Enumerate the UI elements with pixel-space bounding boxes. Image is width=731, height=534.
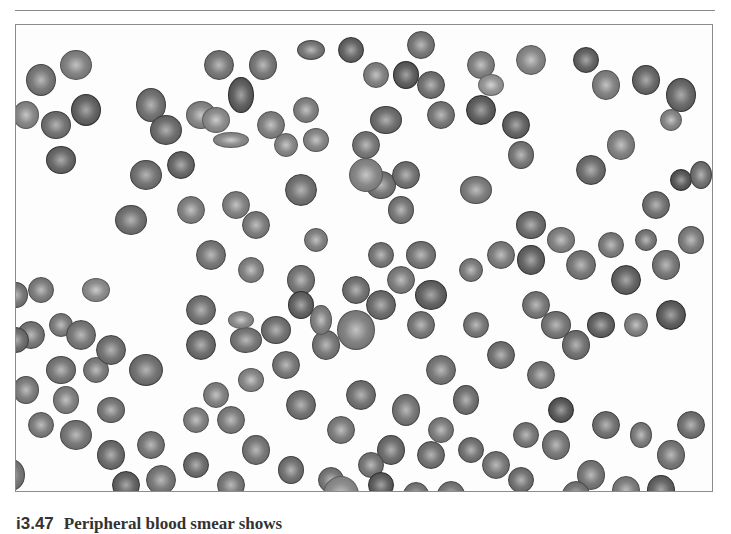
red-blood-cell <box>46 146 76 174</box>
red-blood-cell <box>297 40 325 60</box>
red-blood-cell <box>286 390 316 420</box>
red-blood-cell <box>415 280 447 310</box>
blood-smear-photomicrograph <box>15 24 713 492</box>
red-blood-cell <box>352 131 380 159</box>
red-blood-cell <box>458 437 484 463</box>
red-blood-cell <box>466 95 496 125</box>
red-blood-cell <box>576 155 606 185</box>
red-blood-cell <box>647 475 675 492</box>
red-blood-cell <box>460 176 492 204</box>
red-blood-cell <box>327 416 355 444</box>
red-blood-cell <box>388 196 414 224</box>
red-blood-cell <box>547 227 575 253</box>
red-blood-cell <box>592 411 620 439</box>
red-blood-cell <box>677 411 705 439</box>
red-blood-cell <box>274 133 298 157</box>
red-blood-cell <box>261 316 291 344</box>
red-blood-cell <box>97 440 125 470</box>
red-blood-cell <box>428 417 454 443</box>
red-blood-cell <box>41 111 71 139</box>
red-blood-cell <box>217 406 245 434</box>
red-blood-cell <box>82 278 110 302</box>
red-blood-cell <box>678 226 704 254</box>
red-blood-cell <box>513 422 539 448</box>
red-blood-cell <box>482 451 510 479</box>
red-blood-cell <box>112 471 140 492</box>
red-blood-cell <box>642 191 670 219</box>
red-blood-cell <box>46 356 76 384</box>
red-blood-cell <box>186 295 216 325</box>
red-blood-cell <box>242 435 270 465</box>
red-blood-cell <box>437 481 465 492</box>
header-rule <box>15 10 715 11</box>
caption-text: Peripheral blood smear shows <box>64 514 282 533</box>
red-blood-cell <box>238 257 264 283</box>
red-blood-cell <box>487 241 515 269</box>
red-blood-cell <box>508 141 534 169</box>
red-blood-cell <box>242 211 270 239</box>
red-blood-cell <box>612 476 640 492</box>
red-blood-cell <box>587 312 615 338</box>
red-blood-cell <box>407 31 435 59</box>
red-blood-cell <box>71 94 101 126</box>
red-blood-cell <box>97 397 125 423</box>
red-blood-cell <box>150 115 182 145</box>
red-blood-cell <box>566 250 596 280</box>
red-blood-cell <box>272 351 300 379</box>
figure-caption: i3.47Peripheral blood smear shows <box>16 514 282 534</box>
red-blood-cell <box>368 242 394 268</box>
red-blood-cell <box>15 101 39 129</box>
red-blood-cell <box>130 160 162 190</box>
red-blood-cell <box>508 467 534 492</box>
red-blood-cell <box>406 241 436 269</box>
red-blood-cell <box>230 327 262 353</box>
red-blood-cell <box>346 380 376 410</box>
red-blood-cell <box>129 354 163 386</box>
caption-number: i3.47 <box>16 514 54 533</box>
red-blood-cell <box>60 50 92 80</box>
red-blood-cell <box>517 245 545 275</box>
red-blood-cell <box>203 382 229 408</box>
red-blood-cell <box>285 174 317 206</box>
red-blood-cell <box>630 422 652 448</box>
red-blood-cell <box>66 320 96 350</box>
red-blood-cell <box>542 430 570 460</box>
red-blood-cell <box>53 386 79 414</box>
red-blood-cell <box>417 71 445 99</box>
red-blood-cell <box>598 232 624 258</box>
red-blood-cell <box>463 312 489 338</box>
red-blood-cell <box>196 240 226 270</box>
red-blood-cell <box>516 211 546 239</box>
red-blood-cell <box>312 330 340 360</box>
red-blood-cell <box>238 368 264 392</box>
red-blood-cell <box>115 205 147 235</box>
red-blood-cell <box>342 276 370 304</box>
red-blood-cell <box>666 78 696 112</box>
red-blood-cell <box>657 440 685 470</box>
red-blood-cell <box>670 169 692 191</box>
red-blood-cell <box>60 420 92 450</box>
red-blood-cell <box>403 482 429 492</box>
red-blood-cell <box>607 130 635 160</box>
red-blood-cell <box>213 132 249 148</box>
red-blood-cell <box>516 45 546 75</box>
red-blood-cell <box>632 65 660 95</box>
red-blood-cell <box>407 311 435 339</box>
red-blood-cell <box>146 465 176 492</box>
red-blood-cell <box>96 335 126 365</box>
red-blood-cell <box>15 282 28 308</box>
red-blood-cell <box>548 397 574 423</box>
red-blood-cell <box>363 62 389 88</box>
red-blood-cell <box>652 250 680 280</box>
red-blood-cell <box>690 161 712 189</box>
red-blood-cell <box>427 101 455 129</box>
red-blood-cell <box>349 158 383 192</box>
red-blood-cell <box>278 456 304 484</box>
red-blood-cell <box>293 97 319 123</box>
red-blood-cell <box>228 311 254 329</box>
red-blood-cell <box>28 277 54 303</box>
red-blood-cell <box>392 161 420 189</box>
red-blood-cell <box>392 394 420 426</box>
red-blood-cell <box>459 258 483 282</box>
red-blood-cell <box>137 431 165 459</box>
